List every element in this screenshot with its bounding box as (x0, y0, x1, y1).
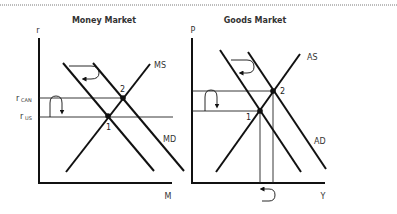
goods-equilibrium-2 (270, 88, 276, 94)
money-market-title: Money Market (72, 16, 136, 25)
r-can-subscript: CAN (21, 97, 32, 103)
goods-market-panel: Goods Market P Y AS AD 2 1 (191, 16, 326, 201)
goods-x-axis-label: Y (320, 192, 326, 201)
money-market-panel: Money Market r M MS MD r CAN r US 2 1 (16, 16, 184, 201)
price-decline-arrow-icon (205, 90, 217, 111)
money-point-2-label: 2 (120, 85, 125, 94)
as-curve (216, 54, 300, 172)
goods-point-2-label: 2 (280, 87, 285, 96)
ad-label: AD (314, 137, 326, 146)
r-us-label: r (20, 112, 24, 121)
r-can-label: r (16, 94, 20, 103)
ms-label: MS (154, 61, 166, 70)
goods-market-title: Goods Market (224, 16, 287, 25)
md-shift-arrow-icon (69, 66, 99, 79)
output-change-arrow-icon (262, 189, 275, 201)
money-equilibrium-2 (120, 95, 126, 101)
goods-y-axis-label: P (191, 26, 196, 35)
goods-point-1-label: 1 (246, 113, 251, 122)
money-equilibrium-1 (105, 113, 111, 119)
as-label: AS (307, 53, 318, 62)
r-us-subscript: US (25, 115, 32, 121)
money-point-1-label: 1 (106, 123, 111, 132)
rate-decline-arrow-icon (50, 96, 62, 117)
md-label: MD (163, 135, 176, 144)
money-y-axis-label: r (36, 26, 40, 35)
money-x-axis-label: M (165, 192, 172, 201)
diagram-canvas: Money Market r M MS MD r CAN r US 2 1 Go… (0, 0, 397, 214)
goods-equilibrium-1 (257, 108, 263, 114)
